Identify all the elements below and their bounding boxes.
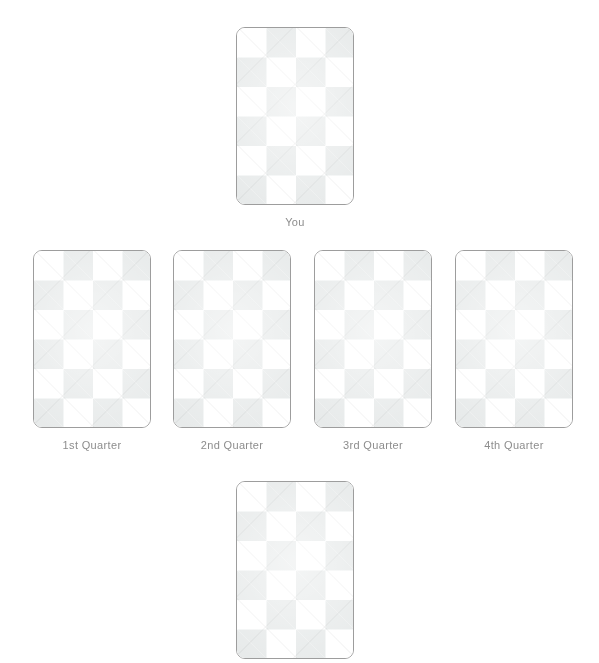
card-back-sheen — [174, 251, 290, 427]
card-label-you: You — [236, 216, 354, 229]
card-slot-you[interactable]: You — [236, 27, 354, 229]
card-label-second-quarter: 2nd Quarter — [173, 439, 291, 452]
card-label-fourth-quarter: 4th Quarter — [455, 439, 573, 452]
card-back-fourth-quarter[interactable] — [455, 250, 573, 428]
card-slot-second-quarter[interactable]: 2nd Quarter — [173, 250, 291, 452]
card-back-sheen — [34, 251, 150, 427]
card-back-you[interactable] — [236, 27, 354, 205]
card-back-second-quarter[interactable] — [173, 250, 291, 428]
card-back-sheen — [237, 482, 353, 658]
card-label-first-quarter: 1st Quarter — [33, 439, 151, 452]
card-slot-bottom[interactable] — [236, 481, 354, 663]
card-slot-fourth-quarter[interactable]: 4th Quarter — [455, 250, 573, 452]
card-back-sheen — [315, 251, 431, 427]
card-back-first-quarter[interactable] — [33, 250, 151, 428]
card-slot-first-quarter[interactable]: 1st Quarter — [33, 250, 151, 452]
card-slot-third-quarter[interactable]: 3rd Quarter — [314, 250, 432, 452]
card-label-third-quarter: 3rd Quarter — [314, 439, 432, 452]
card-back-sheen — [237, 28, 353, 204]
card-back-third-quarter[interactable] — [314, 250, 432, 428]
card-back-sheen — [456, 251, 572, 427]
card-back-bottom[interactable] — [236, 481, 354, 659]
